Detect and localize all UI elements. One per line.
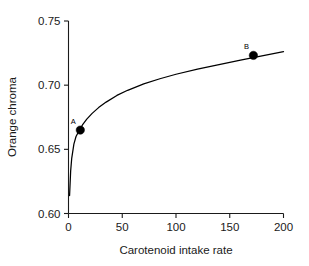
y-tick-label: 0.60	[38, 208, 60, 220]
chart-figure: 0.600.650.700.75 050100150200 AB Caroten…	[0, 0, 309, 266]
data-point-label-a: A	[71, 117, 76, 126]
y-axis-title: Orange chroma	[6, 76, 18, 157]
data-point-label-b: B	[244, 42, 249, 51]
x-tick-label: 100	[166, 221, 185, 233]
chart-background	[0, 0, 309, 266]
x-tick-label: 150	[220, 221, 239, 233]
x-tick-label: 0	[65, 221, 71, 233]
y-tick-label: 0.75	[38, 15, 60, 27]
x-tick-label: 50	[116, 221, 129, 233]
y-tick-label: 0.70	[38, 79, 60, 91]
x-axis-title: Carotenoid intake rate	[119, 244, 232, 256]
data-point-marker-b	[249, 51, 257, 59]
y-tick-label: 0.65	[38, 143, 60, 155]
data-point-marker-a	[76, 126, 84, 134]
orange-chroma-vs-carotenoid-intake-plot: 0.600.650.700.75 050100150200 AB Caroten…	[0, 0, 309, 266]
x-tick-label: 200	[274, 221, 293, 233]
